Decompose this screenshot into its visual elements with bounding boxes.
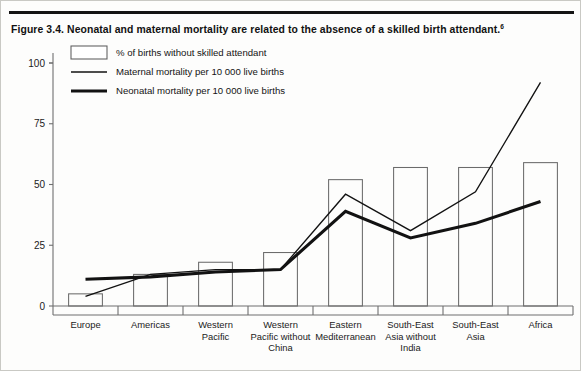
bar [329, 180, 363, 306]
maternal-line [86, 82, 541, 296]
category-label: China [268, 342, 293, 353]
bar [524, 163, 558, 306]
category-label: India [400, 342, 421, 353]
bar [134, 274, 168, 306]
bar [199, 262, 233, 306]
y-tick-label: 0 [39, 301, 45, 312]
y-tick-label: 100 [28, 58, 45, 69]
category-label: Asia without [385, 331, 436, 342]
y-axis: 0255075100 [28, 53, 53, 312]
category-label: Asia [466, 331, 485, 342]
y-tick-label: 25 [34, 240, 46, 251]
figure-top-rule [9, 11, 574, 14]
figure-card: Figure 3.4. Neonatal and maternal mortal… [0, 0, 581, 371]
mortality-chart: 0255075100 EuropeAmericasWesternPacificW… [1, 35, 581, 371]
category-label: South-East [387, 319, 434, 330]
figure-caption-superscript: 6 [500, 23, 504, 30]
category-labels: EuropeAmericasWesternPacificWesternPacif… [70, 319, 553, 353]
category-label: Africa [529, 319, 554, 330]
category-label: Mediterranean [315, 331, 375, 342]
category-label: Western [263, 319, 298, 330]
legend-swatch-bars [71, 46, 107, 59]
bar-series [69, 163, 558, 306]
category-label: Americas [131, 319, 170, 330]
category-label: Pacific without [251, 331, 311, 342]
chart-plot-area: 0255075100 EuropeAmericasWesternPacificW… [1, 35, 581, 371]
category-label: Eastern [329, 319, 361, 330]
chart-legend: % of births without skilled attendantMat… [71, 46, 285, 96]
legend-label: Neonatal mortality per 10 000 live birth… [116, 85, 285, 96]
legend-label: % of births without skilled attendant [116, 47, 267, 58]
category-label: South-East [452, 319, 499, 330]
category-label: Europe [70, 319, 100, 330]
y-tick-label: 50 [34, 179, 46, 190]
neonatal-line [86, 202, 541, 280]
line-series [86, 82, 541, 296]
figure-caption: Figure 3.4. Neonatal and maternal mortal… [11, 20, 573, 36]
bar [459, 167, 493, 306]
category-label: Western [198, 319, 233, 330]
legend-label: Maternal mortality per 10 000 live birth… [116, 66, 284, 77]
x-axis [53, 306, 573, 315]
category-label: Pacific [202, 331, 230, 342]
figure-caption-text: Figure 3.4. Neonatal and maternal mortal… [11, 24, 500, 35]
y-tick-label: 75 [34, 118, 46, 129]
